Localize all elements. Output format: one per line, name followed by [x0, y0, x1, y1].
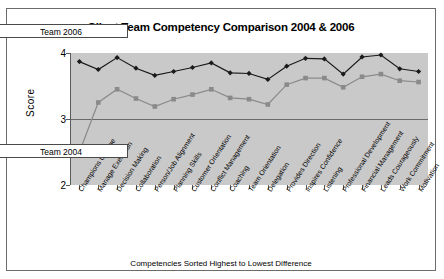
data-point[interactable]: [115, 87, 120, 92]
data-point[interactable]: [246, 71, 251, 76]
data-point[interactable]: [322, 76, 327, 81]
data-point[interactable]: [228, 70, 233, 75]
data-point[interactable]: [134, 96, 139, 101]
data-point[interactable]: [190, 65, 195, 70]
y-axis-label: Score: [25, 88, 36, 117]
data-point[interactable]: [284, 82, 289, 87]
data-point[interactable]: [303, 76, 308, 81]
data-point[interactable]: [152, 104, 157, 109]
y-tick-mark: [66, 185, 70, 186]
data-point[interactable]: [209, 87, 214, 92]
chart-frame: Client Team Competency Comparison 2004 &…: [6, 8, 436, 271]
data-point[interactable]: [171, 69, 176, 74]
legend-item-team-2006[interactable]: Team 2006: [0, 24, 128, 38]
data-point[interactable]: [190, 92, 195, 97]
data-point[interactable]: [228, 96, 233, 101]
data-point[interactable]: [133, 66, 138, 71]
data-point[interactable]: [379, 72, 384, 77]
data-point[interactable]: [416, 80, 421, 85]
data-point[interactable]: [209, 60, 214, 65]
x-axis-tick-labels: Champions ChangeManage ExecutionDecision…: [70, 189, 428, 255]
data-point[interactable]: [96, 100, 101, 105]
series-line-team-2004: [79, 74, 418, 152]
data-point[interactable]: [416, 69, 421, 74]
data-point[interactable]: [303, 56, 308, 61]
data-point[interactable]: [341, 85, 346, 90]
data-point[interactable]: [360, 74, 365, 79]
legend-item-team-2004[interactable]: Team 2004: [0, 144, 128, 158]
x-axis-label: Competencies Sorted Highest to Lowest Di…: [7, 259, 435, 268]
data-point[interactable]: [171, 97, 176, 102]
data-point[interactable]: [247, 97, 252, 102]
data-point[interactable]: [77, 59, 82, 64]
data-point[interactable]: [397, 78, 402, 83]
data-point[interactable]: [266, 102, 271, 107]
data-point[interactable]: [152, 73, 157, 78]
